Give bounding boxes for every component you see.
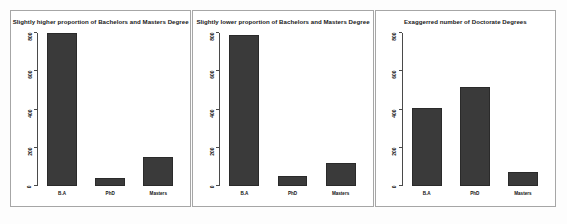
bar-3-phd: PhD	[460, 87, 490, 186]
bar-1-ba: B.A	[47, 33, 77, 186]
y-tick-1-3: 600	[34, 70, 37, 71]
y-tick-2-4: 800	[216, 32, 219, 33]
y-tick-label-3-2: 400	[392, 109, 397, 117]
bar-2-ba: B.A	[229, 35, 259, 186]
x-axis-label-2-2: Masters	[327, 191, 355, 196]
y-tick-3-1: 200	[399, 147, 402, 148]
y-tick-label-2-0: 0	[210, 186, 215, 189]
bar-2-masters: Masters	[326, 163, 356, 186]
chart-title-1: Slightly higher proportion of Bachelors …	[11, 18, 190, 26]
y-tick-3-0: 0	[399, 185, 402, 186]
y-tick-2-3: 600	[216, 70, 219, 71]
plot-area-3: 0200400600800 B.APhDMasters	[402, 33, 547, 186]
chart-title-3: Exaggerred number of Doctorate Degrees	[376, 18, 555, 26]
y-tick-3-4: 800	[399, 32, 402, 33]
y-tick-label-3-4: 800	[392, 33, 397, 41]
chart-panel-2: Slightly lower proportion of Bachelors a…	[192, 10, 373, 207]
bar-3-masters: Masters	[508, 172, 538, 186]
y-tick-1-4: 800	[34, 32, 37, 33]
x-axis-label-1-1: PhD	[96, 191, 124, 196]
y-tick-label-2-2: 400	[210, 109, 215, 117]
x-axis-label-2-1: PhD	[279, 191, 307, 196]
y-tick-3-3: 600	[399, 70, 402, 71]
x-axis-label-1-2: Masters	[144, 191, 172, 196]
y-tick-label-1-4: 800	[28, 33, 33, 41]
y-tick-2-1: 200	[216, 147, 219, 148]
y-tick-label-3-3: 600	[392, 71, 397, 79]
y-tick-label-2-1: 200	[210, 147, 215, 155]
x-axis-label-1-0: B.A	[48, 191, 76, 196]
chart-panel-group: Slightly higher proportion of Bachelors …	[10, 10, 557, 214]
screenshot-root: Slightly higher proportion of Bachelors …	[0, 0, 567, 224]
y-tick-3-2: 400	[399, 109, 402, 110]
bar-2-phd: PhD	[278, 176, 308, 186]
y-tick-label-3-1: 200	[392, 147, 397, 155]
bar-group-1: B.APhDMasters	[38, 33, 182, 186]
y-tick-label-1-3: 600	[28, 71, 33, 79]
bar-group-3: B.APhDMasters	[403, 33, 547, 186]
x-axis-label-2-0: B.A	[230, 191, 258, 196]
chart-title-2: Slightly lower proportion of Bachelors a…	[193, 18, 372, 26]
x-axis-label-3-1: PhD	[461, 191, 489, 196]
y-tick-2-0: 0	[216, 185, 219, 186]
bar-1-masters: Masters	[143, 157, 173, 186]
x-axis-label-3-0: B.A	[413, 191, 441, 196]
y-tick-label-3-0: 0	[392, 186, 397, 189]
y-tick-label-1-2: 400	[28, 109, 33, 117]
y-tick-label-2-3: 600	[210, 71, 215, 79]
y-tick-label-2-4: 800	[210, 33, 215, 41]
y-tick-1-1: 200	[34, 147, 37, 148]
chart-panel-3: Exaggerred number of Doctorate Degrees 0…	[375, 10, 556, 207]
bar-3-ba: B.A	[412, 108, 442, 186]
bar-1-phd: PhD	[95, 178, 125, 186]
x-axis-label-3-2: Masters	[509, 191, 537, 196]
chart-panel-1: Slightly higher proportion of Bachelors …	[10, 10, 191, 207]
plot-area-2: 0200400600800 B.APhDMasters	[219, 33, 364, 186]
plot-area-1: 0200400600800 B.APhDMasters	[37, 33, 182, 186]
y-tick-1-0: 0	[34, 185, 37, 186]
y-tick-2-2: 400	[216, 109, 219, 110]
y-tick-label-1-0: 0	[28, 186, 33, 189]
y-tick-label-1-1: 200	[28, 147, 33, 155]
bar-group-2: B.APhDMasters	[220, 33, 364, 186]
y-tick-1-2: 400	[34, 109, 37, 110]
